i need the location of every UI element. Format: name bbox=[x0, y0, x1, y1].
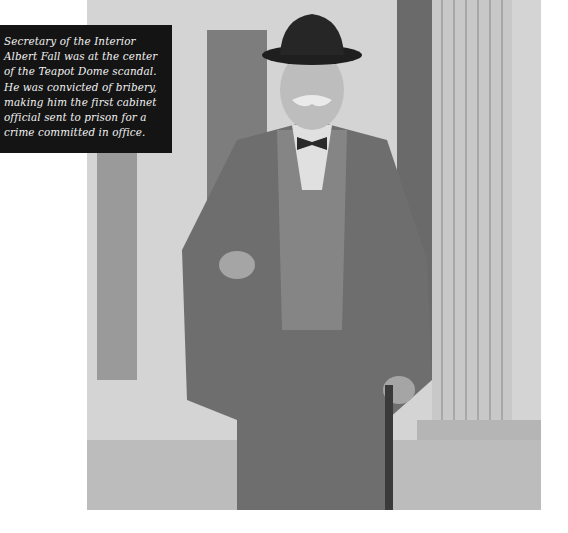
caption-line: Albert Fall was at the center bbox=[4, 49, 168, 64]
column bbox=[432, 0, 512, 440]
caption-line: making him the first cabinet bbox=[4, 95, 168, 110]
caption-line: Secretary of the Interior bbox=[4, 34, 168, 49]
caption-line: He was convicted of bribery, bbox=[4, 80, 168, 95]
caption-line: crime committed in office. bbox=[4, 125, 168, 140]
left-hand bbox=[219, 251, 255, 279]
caption-line: official sent to prison for a bbox=[4, 110, 168, 125]
cane bbox=[385, 385, 393, 510]
caption-line: of the Teapot Dome scandal. bbox=[4, 64, 168, 79]
photo-caption: Secretary of the Interior Albert Fall wa… bbox=[0, 25, 172, 153]
